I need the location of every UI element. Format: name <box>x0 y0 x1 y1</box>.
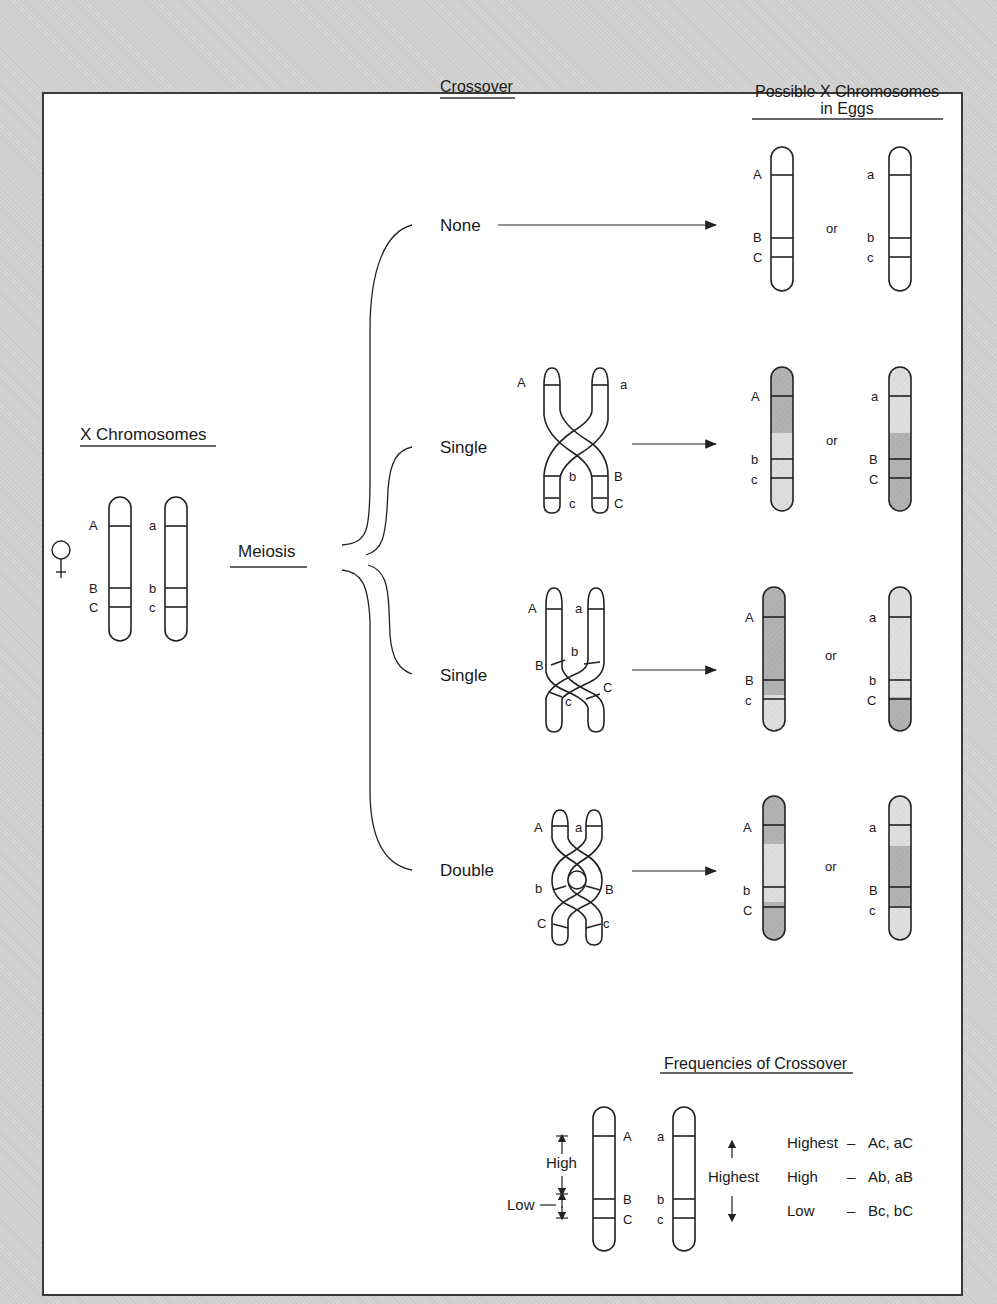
gene-label: a <box>575 601 583 616</box>
outcome-single2-right: a b C <box>867 587 911 731</box>
gene-label: a <box>869 610 877 625</box>
gene-label: a <box>149 518 157 533</box>
branch-label-single-2: Single <box>440 666 487 685</box>
gene-label: A <box>528 601 537 616</box>
gene-label: C <box>753 250 762 265</box>
gene-label: a <box>657 1129 665 1144</box>
gene-label: C <box>867 693 876 708</box>
svg-text:–: – <box>847 1134 856 1151</box>
crossover-heading: Crossover <box>440 78 514 95</box>
gene-label: b <box>535 881 542 896</box>
or-label: or <box>826 221 838 236</box>
frequencies-heading: Frequencies of Crossover <box>664 1055 848 1072</box>
highest-label: Highest <box>708 1168 760 1185</box>
gene-label: a <box>575 820 583 835</box>
branch-label-none: None <box>440 216 481 235</box>
frequency-row-highest: Highest – Ac, aC <box>787 1134 913 1151</box>
crossover-diagram: Crossover Possible X Chromosomes in Eggs… <box>0 0 997 1304</box>
possible-heading-line1: Possible X Chromosomes <box>755 83 939 100</box>
outcome-single1-left: A b c <box>751 367 793 511</box>
gene-label: b <box>149 581 156 596</box>
svg-text:Highest: Highest <box>787 1134 839 1151</box>
gene-label: c <box>565 694 572 709</box>
gene-label: b <box>571 644 578 659</box>
gene-label: B <box>535 658 544 673</box>
gene-label: A <box>534 820 543 835</box>
frequency-row-low: Low – Bc, bC <box>787 1202 913 1219</box>
gene-label: A <box>89 518 98 533</box>
x-chromosomes-header: X Chromosomes <box>80 425 216 446</box>
gene-label: B <box>869 452 878 467</box>
gene-label: C <box>614 496 623 511</box>
outcome-double-left: A b C <box>743 796 785 940</box>
low-label: Low <box>507 1196 535 1213</box>
frequency-row-high: High – Ab, aB <box>787 1168 913 1185</box>
gene-label: C <box>603 680 612 695</box>
or-label: or <box>825 648 837 663</box>
outcome-none-right: a b c <box>867 147 911 291</box>
gene-label: A <box>623 1129 632 1144</box>
frequency-legend: Frequencies of Crossover A B C a b c Hig… <box>507 1055 913 1251</box>
svg-text:Bc, bC: Bc, bC <box>868 1202 913 1219</box>
branch-label-single-1: Single <box>440 438 487 457</box>
gene-label: B <box>89 581 98 596</box>
gene-label: c <box>867 250 874 265</box>
crossover-header: Crossover <box>440 78 515 98</box>
outcome-double-right: a B c <box>869 796 911 940</box>
gene-label: C <box>743 903 752 918</box>
gene-label: c <box>603 916 610 931</box>
gene-label: a <box>869 820 877 835</box>
gene-label: a <box>867 167 875 182</box>
meiosis-label-group: Meiosis <box>230 542 307 567</box>
gene-label: c <box>751 472 758 487</box>
gene-label: c <box>869 903 876 918</box>
gene-label: B <box>753 230 762 245</box>
gene-label: b <box>751 452 758 467</box>
gene-label: b <box>569 469 576 484</box>
crossover-figure-single-2: A a B b c C <box>528 588 612 732</box>
gene-label: C <box>89 600 98 615</box>
branch-label-double: Double <box>440 861 494 880</box>
x-chromosomes-heading: X Chromosomes <box>80 425 207 444</box>
svg-text:Low: Low <box>787 1202 815 1219</box>
gene-label: B <box>623 1192 632 1207</box>
or-label: or <box>825 859 837 874</box>
outcome-single1-right: a B C <box>869 367 911 511</box>
gene-label: B <box>614 469 623 484</box>
possible-heading-line2: in Eggs <box>820 100 873 117</box>
gene-label: c <box>745 693 752 708</box>
meiosis-label: Meiosis <box>238 542 296 561</box>
gene-label: B <box>745 673 754 688</box>
gene-label: C <box>869 472 878 487</box>
svg-text:Ac, aC: Ac, aC <box>868 1134 913 1151</box>
outcome-single2-left: A B c <box>745 587 785 731</box>
or-label: or <box>826 433 838 448</box>
svg-text:–: – <box>847 1202 856 1219</box>
gene-label: b <box>869 673 876 688</box>
gene-label: a <box>871 389 879 404</box>
possible-eggs-header: Possible X Chromosomes in Eggs <box>752 83 943 119</box>
crossover-figure-single-1: A a b B c C <box>517 368 628 513</box>
gene-label: B <box>869 883 878 898</box>
gene-label: A <box>517 375 526 390</box>
gene-label: A <box>745 610 754 625</box>
gene-label: b <box>743 883 750 898</box>
gene-label: c <box>149 600 156 615</box>
gene-label: A <box>751 389 760 404</box>
branch-connectors <box>342 225 412 870</box>
gene-label: c <box>657 1212 664 1227</box>
gene-label: a <box>620 377 628 392</box>
svg-text:–: – <box>847 1168 856 1185</box>
gene-label: B <box>605 882 614 897</box>
gene-label: A <box>753 167 762 182</box>
gene-label: c <box>569 496 576 511</box>
outcome-none-left: A B C <box>753 147 793 291</box>
parent-chromosome-light: a b c <box>149 497 187 641</box>
gene-label: C <box>537 916 546 931</box>
svg-text:High: High <box>787 1168 818 1185</box>
gene-label: C <box>623 1212 632 1227</box>
svg-text:Ab, aB: Ab, aB <box>868 1168 913 1185</box>
female-symbol-icon <box>52 541 70 578</box>
crossover-figure-double: A a b B C c <box>534 810 614 945</box>
gene-label: b <box>867 230 874 245</box>
